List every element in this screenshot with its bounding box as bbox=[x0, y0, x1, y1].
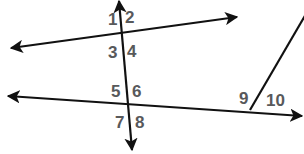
bottom-line bbox=[8, 96, 302, 116]
angle-label-2: 2 bbox=[125, 8, 134, 27]
angle-label-1: 1 bbox=[108, 10, 117, 29]
top-line bbox=[11, 17, 237, 48]
angle-label-9: 9 bbox=[239, 89, 248, 108]
geometry-diagram: 1 2 3 4 5 6 7 8 9 10 bbox=[0, 0, 304, 154]
angle-label-3: 3 bbox=[108, 43, 117, 62]
angle-label-5: 5 bbox=[111, 82, 120, 101]
angle-label-10: 10 bbox=[266, 91, 285, 110]
angle-label-8: 8 bbox=[135, 113, 144, 132]
angle-label-7: 7 bbox=[115, 113, 124, 132]
angle-label-4: 4 bbox=[127, 42, 137, 61]
angle-label-6: 6 bbox=[132, 82, 141, 101]
